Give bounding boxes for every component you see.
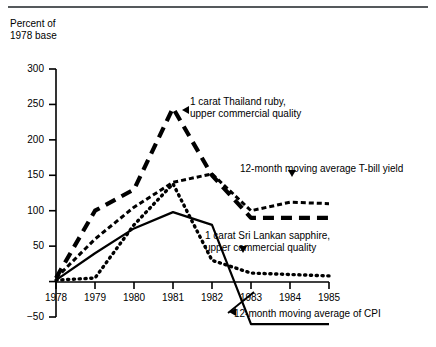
chart-plot-area: −50050100150200250300 197819791980198119… (0, 0, 436, 347)
tbill-annotation-label: 12-month moving average T-bill yield (240, 163, 403, 175)
y-tick-label: 50 (10, 240, 44, 251)
x-tick-label: 1985 (312, 292, 346, 303)
annotation-arrow-icon (182, 106, 189, 114)
x-tick-label: 1979 (78, 292, 112, 303)
y-tick-label: 300 (10, 63, 44, 74)
y-tick-label: 250 (10, 98, 44, 109)
y-tick-label: −50 (10, 311, 44, 322)
y-tick-label: 200 (10, 134, 44, 145)
ruby-annotation-label: 1 carat Thailand ruby, upper commercial … (190, 96, 301, 120)
x-tick-label: 1981 (156, 292, 190, 303)
x-tick-label: 1983 (234, 292, 268, 303)
x-tick-label: 1980 (117, 292, 151, 303)
y-tick-label: 150 (10, 169, 44, 180)
x-tick-label: 1982 (195, 292, 229, 303)
x-tick-label: 1984 (273, 292, 307, 303)
series-line-1 (56, 174, 329, 278)
annotation-markers (182, 106, 296, 316)
sapphire-annotation-label: 1 carat Sri Lankan sapphire, upper comme… (205, 230, 330, 254)
x-axis-ticks (56, 282, 329, 289)
y-tick-label: 100 (10, 205, 44, 216)
cpi-annotation-label: 12-month moving average of CPI (234, 308, 381, 320)
x-tick-label: 1978 (39, 292, 73, 303)
